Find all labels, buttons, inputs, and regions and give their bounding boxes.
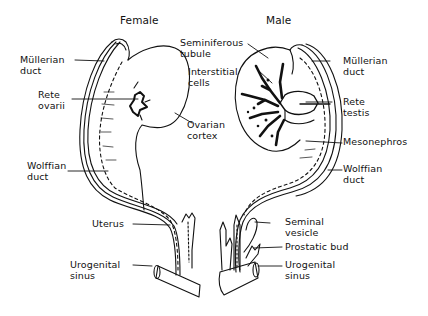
rete-ovarii-shape [130, 92, 147, 116]
male-label-mullerian-duct: Müllerian duct [343, 56, 388, 77]
male-title: Male [266, 15, 291, 26]
male-label-interstitial-cells: Interstitial cells [188, 67, 238, 88]
male-label-rete-testis: Rete testis [343, 97, 369, 118]
seminiferous-tubules [242, 64, 284, 145]
male-label-wolffian-duct: Wolffian duct [343, 164, 382, 185]
female-label-uterus: Uterus [92, 219, 124, 230]
male-label-seminal-vesicle: Seminal vesicle [285, 217, 324, 238]
male-mesonephros-dashes [244, 58, 325, 215]
male-label-urogenital-sinus: Urogenital sinus [285, 260, 335, 281]
female-label-wolffian-duct: Wolffian duct [27, 161, 66, 182]
ovary-outline [128, 46, 190, 210]
female-title: Female [120, 15, 159, 26]
testis-outline [235, 47, 300, 151]
male-urogenital-sinus [219, 262, 258, 295]
female-duct-outer [80, 42, 176, 275]
female-urogenital-sinus [156, 266, 200, 297]
diagram-canvas: Female Male Müllerian duct Rete ovarii O… [0, 0, 428, 316]
male-reproductive-tract [219, 44, 342, 295]
female-label-rete-ovarii: Rete ovarii [38, 90, 65, 111]
female-label-urogenital-sinus: Urogenital sinus [70, 260, 120, 281]
rete-testis-network [280, 91, 330, 114]
female-label-mullerian-duct: Müllerian duct [20, 55, 65, 76]
male-label-prostatic-bud: Prostatic bud [285, 242, 349, 253]
female-label-ovarian-cortex: Ovarian cortex [187, 120, 225, 141]
male-label-mesonephros: Mesonephros [343, 137, 407, 148]
seminal-vesicle-shape [244, 218, 257, 252]
male-label-seminiferous-tubule: Seminiferous tubule [180, 38, 243, 59]
